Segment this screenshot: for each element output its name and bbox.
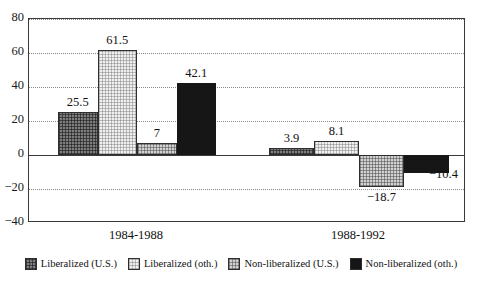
x-category-label: 1988-1992 (298, 228, 418, 243)
legend-label: Non-liberalized (U.S.) (244, 259, 338, 270)
legend-item: Non-liberalized (oth.) (350, 258, 458, 270)
legend-item: Liberalized (U.S.) (25, 258, 117, 270)
legend-item: Non-liberalized (U.S.) (228, 258, 338, 270)
bar-value-label: 7 (129, 126, 185, 141)
y-tick-label: 80 (0, 10, 24, 25)
bar-value-label: 25.5 (50, 95, 106, 110)
legend-label: Liberalized (oth.) (144, 259, 217, 270)
legend-swatch-icon (350, 258, 362, 270)
bar-value-label: 61.5 (90, 33, 146, 48)
legend-swatch-icon (228, 258, 240, 270)
bar-chart-figure: 806040200−20−40 25.561.5742.13.98.1−18.7… (0, 0, 482, 291)
legend-swatch-icon (128, 258, 140, 270)
gridline (29, 19, 464, 20)
gridline (29, 53, 464, 54)
y-tick-label: −40 (0, 214, 24, 229)
x-category-label: 1984-1988 (76, 228, 196, 243)
chart-legend: Liberalized (U.S.)Liberalized (oth.)Non-… (0, 258, 482, 270)
bar (177, 83, 217, 155)
bar (137, 143, 177, 155)
bar (359, 155, 404, 187)
bar (58, 112, 98, 155)
bar-value-label: −18.7 (351, 190, 412, 205)
plot-inner: 25.561.5742.13.98.1−18.7−10.4 (29, 19, 464, 221)
bar-value-label: −10.4 (406, 167, 464, 182)
plot-area: 25.561.5742.13.98.1−18.7−10.4 (28, 18, 465, 222)
bar-value-label: 42.1 (169, 66, 225, 81)
y-tick-label: 0 (0, 146, 24, 161)
gridline (29, 87, 464, 88)
y-tick-label: 40 (0, 78, 24, 93)
y-tick-label: 20 (0, 112, 24, 127)
legend-label: Non-liberalized (oth.) (366, 259, 458, 270)
legend-label: Liberalized (U.S.) (41, 259, 117, 270)
legend-swatch-icon (25, 258, 37, 270)
bar-value-label: 8.1 (306, 124, 367, 139)
legend-item: Liberalized (oth.) (128, 258, 217, 270)
bar (269, 148, 314, 155)
y-tick-label: −20 (0, 180, 24, 195)
y-tick-label: 60 (0, 44, 24, 59)
